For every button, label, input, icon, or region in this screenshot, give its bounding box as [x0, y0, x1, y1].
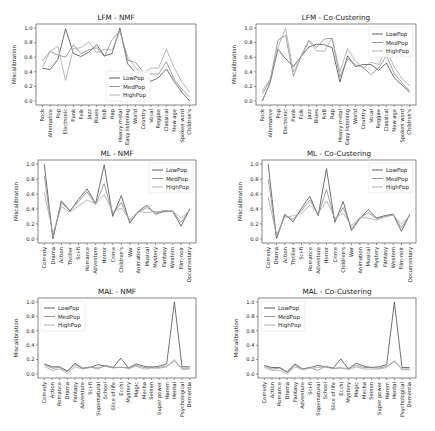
x-tick-label: Comedy — [265, 247, 272, 268]
y-axis-label: Miscalibration — [237, 182, 243, 221]
legend-label: MedPop — [386, 176, 408, 183]
x-tick-label: Adventure — [79, 382, 85, 409]
legend: LowPopMedPopHighPop — [369, 163, 413, 193]
x-tick-label: Hentai — [391, 382, 397, 399]
y-tick-label: 0.2 — [246, 356, 254, 362]
x-tick-label: Drama — [273, 247, 279, 265]
x-tick-label: Rock — [39, 109, 45, 121]
x-tick-label: Supernatural — [95, 382, 102, 416]
y-tick-label: 0.8 — [26, 176, 34, 182]
x-tick-label: Electronic — [282, 109, 288, 135]
x-tick-label: Fantasy — [382, 247, 389, 267]
x-tick-label: Reggae — [375, 109, 382, 129]
x-tick-label: Children's — [186, 109, 192, 135]
y-axis-label: Miscalibration — [13, 318, 19, 357]
y-tick-label: 0.0 — [26, 236, 34, 242]
legend-label: MedPop — [278, 314, 300, 321]
y-tick-label: 0.0 — [246, 371, 254, 377]
chart-title: LFM - NMF — [97, 13, 134, 22]
x-tick-label: New age — [391, 109, 398, 132]
x-tick-label: Vocal — [148, 109, 154, 123]
x-tick-label: Romance — [56, 382, 62, 406]
chart-lfm-nmf: LFM - NMFMiscalibration0.00.20.40.60.81.… — [11, 13, 196, 145]
y-tick-label: 0.8 — [250, 176, 258, 182]
x-tick-label: Musical — [365, 247, 371, 266]
x-tick-label: Drama — [64, 382, 70, 400]
x-tick-label: Ecchi — [118, 382, 124, 396]
x-tick-label: Country — [360, 109, 367, 130]
x-tick-label: Comedy — [261, 382, 268, 403]
x-tick-label: School — [322, 382, 328, 399]
x-tick-label: Super power — [156, 381, 163, 415]
y-tick-label: 1.0 — [246, 299, 254, 305]
x-tick-label: Animation — [357, 247, 363, 273]
x-tick-label: Punk — [70, 109, 76, 122]
x-tick-label: Thriller — [67, 246, 73, 266]
x-tick-label: Rap — [329, 108, 336, 119]
x-tick-label: War — [348, 246, 354, 257]
y-tick-label: 0.4 — [24, 69, 33, 75]
y-tick-label: 0.0 — [250, 236, 258, 242]
legend-label: HighPop — [58, 322, 81, 329]
legend-label: LowPop — [386, 167, 408, 174]
x-tick-label: Heavy metal — [117, 109, 124, 142]
x-tick-label: Mecha — [361, 382, 367, 399]
chart-title: LFM - Co-Custering — [302, 13, 370, 22]
x-tick-label: Classical — [163, 109, 169, 132]
y-tick-label: 0.0 — [244, 98, 252, 104]
x-tick-label: Comedy — [41, 247, 48, 268]
y-tick-label: 1.0 — [26, 299, 34, 305]
legend-label: LowPop — [123, 75, 145, 82]
x-tick-label: Adventure — [315, 247, 321, 274]
y-tick-label: 1.0 — [250, 161, 258, 167]
legend-label: MedPop — [123, 84, 145, 91]
y-tick-label: 0.4 — [26, 206, 35, 212]
y-tick-label: 0.4 — [250, 206, 259, 212]
legend-label: LowPop — [58, 305, 80, 312]
legend-label: LowPop — [166, 167, 188, 174]
x-tick-label: Children's — [340, 247, 346, 273]
x-tick-label: Fantasy — [72, 382, 79, 402]
x-tick-label: Horror — [323, 246, 329, 263]
x-tick-label: New age — [171, 109, 178, 132]
x-tick-label: Folk — [78, 109, 84, 119]
x-tick-label: Crime — [110, 247, 116, 262]
y-tick-label: 0.6 — [246, 328, 254, 334]
x-tick-label: Ecchi — [338, 382, 344, 396]
legend-label: MedPop — [166, 176, 188, 183]
x-tick-label: Film-noir — [178, 246, 184, 269]
x-tick-label: Fantasy — [292, 382, 299, 402]
x-tick-label: Dementia — [186, 382, 192, 407]
x-tick-label: Hentai — [171, 382, 177, 399]
chart-title: ML - Co-Custering — [307, 149, 371, 158]
x-tick-label: Reggae — [155, 109, 162, 129]
x-tick-label: Sci-fi — [298, 247, 304, 260]
legend-label: HighPop — [166, 184, 189, 191]
y-tick-label: 0.4 — [26, 342, 35, 348]
y-tick-label: 1.0 — [24, 25, 32, 31]
chart-ml-cocluster: ML - Co-CusteringMiscalibration0.00.20.4… — [237, 149, 416, 282]
x-tick-label: Psychological — [179, 382, 186, 417]
chart-title: MAL - Co-Custering — [302, 287, 371, 296]
x-tick-label: Romance — [276, 382, 282, 406]
y-tick-label: 1.0 — [26, 161, 34, 167]
legend: LowPopMedPopHighPop — [149, 163, 193, 193]
x-tick-label: Adventure — [92, 247, 98, 274]
legend-label: HighPop — [123, 92, 146, 99]
y-tick-label: 0.8 — [24, 39, 32, 45]
x-tick-label: Mystery — [373, 247, 380, 268]
x-tick-label: Psychological — [399, 382, 406, 417]
x-tick-label: Sci-fi — [87, 382, 93, 395]
y-tick-label: 0.6 — [244, 54, 252, 60]
x-tick-label: Dementia — [406, 382, 412, 407]
x-tick-label: Romance — [307, 247, 313, 271]
x-tick-label: School — [102, 382, 108, 399]
legend-label: HighPop — [386, 184, 409, 191]
x-tick-label: Comedy — [41, 382, 48, 403]
x-tick-label: Alternative — [47, 109, 53, 137]
legend: LowPopMedPopHighPop — [369, 27, 413, 57]
x-tick-label: Fantasy — [161, 247, 168, 267]
x-tick-label: Harem — [164, 382, 170, 399]
y-tick-label: 0.6 — [250, 191, 258, 197]
legend-label: LowPop — [278, 305, 300, 312]
